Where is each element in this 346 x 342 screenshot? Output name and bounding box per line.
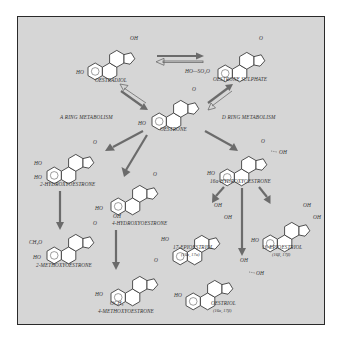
compound-label: 16-EPIOESTRIOL <box>262 244 302 250</box>
compound-label: 2-HYDROXYOESTRONE <box>40 181 96 187</box>
arrow-16a-to-16-epioestriol <box>259 187 271 204</box>
group-label: OH <box>214 202 223 208</box>
compound-17-epioestriol: OH OH HO 17-EPIOESTRIOL (16α, 17α) <box>160 202 233 265</box>
compound-label: OESTRIOL <box>211 300 236 306</box>
metabolism-diagram: OH HO OESTRADIOL O HO—SO₂O OESTRONE SULP… <box>0 0 346 342</box>
group-label: CH₃O <box>29 239 42 245</box>
arrow-sulphate-to-oestradiol <box>156 58 203 65</box>
group-label: HO <box>94 291 103 297</box>
group-label: OH <box>113 213 122 219</box>
group-label: OH <box>240 257 249 263</box>
arrow-4-hydroxy-to-4-methoxy <box>112 230 120 270</box>
group-label: HO <box>173 292 182 298</box>
group-label: HO <box>250 237 259 243</box>
group-label: O <box>261 138 265 144</box>
arrow-oestradiol-to-oestrone <box>121 91 148 110</box>
group-label: HO <box>206 170 215 176</box>
group-label: HO <box>160 236 169 242</box>
arrow-oestrone-to-16a-hydroxyoestrone <box>205 131 238 151</box>
compound-4-methoxyoestrone: O HO OCH₃ 4-METHOXYOESTRONE <box>94 257 158 314</box>
compound-2-hydroxyoestrone: O HO HO 2-HYDROXYOESTRONE <box>33 139 97 187</box>
compound-label: OESTRADIOL <box>95 77 127 83</box>
group-label: OH <box>256 270 265 276</box>
group-label: HO <box>33 174 42 180</box>
group-label: HO <box>94 205 103 211</box>
compound-oestriol: OH OH HO OESTRIOL (16α, 17β) <box>173 257 265 314</box>
compound-label: OESTRONE SULPHATE <box>213 76 268 82</box>
arrow-2-hydroxy-to-2-methoxy <box>56 191 64 230</box>
group-label: O <box>192 86 196 92</box>
section-label-a-ring: A RING METABOLISM <box>59 114 113 120</box>
compound-16a-hydroxyoestrone: O OH HO 16α-HYDROXYOESTRONE <box>206 138 288 186</box>
group-label: HO <box>32 254 41 260</box>
group-label: O <box>93 220 97 226</box>
stereo-label: (16α, 17β) <box>213 308 232 314</box>
compound-16-epioestriol: OH OH HO 16-EPIOESTRIOL (16β, 17β) <box>250 202 322 258</box>
group-label: OH <box>279 149 288 155</box>
group-label: O <box>154 257 158 263</box>
group-label: HO <box>137 120 146 126</box>
arrow-16a-to-oestriol <box>238 188 246 256</box>
compound-label: 2-METHOXYOESTRONE <box>36 262 93 268</box>
group-label: HO <box>33 160 42 166</box>
compound-oestradiol: OH HO OESTRADIOL <box>75 35 139 83</box>
group-label: OCH₃ <box>110 300 123 306</box>
group-label: O <box>259 35 263 41</box>
group-label: O <box>153 171 157 177</box>
group-label: HO—SO₂O <box>184 68 210 74</box>
group-label: O <box>93 139 97 145</box>
group-label: OH <box>224 214 233 220</box>
compound-label: 4-HYDROXYOESTRONE <box>112 220 168 226</box>
compound-label: OESTRONE <box>160 126 187 132</box>
compound-label: 4-METHOXYOESTRONE <box>98 308 155 314</box>
compound-2-methoxyoestrone: O CH₃O HO 2-METHOXYOESTRONE <box>29 220 97 268</box>
compound-4-hydroxyoestrone: O HO OH 4-HYDROXYOESTRONE <box>94 171 168 226</box>
group-label: OH <box>303 202 312 208</box>
arrow-oestrone-to-2-hydroxyoestrone <box>105 131 143 151</box>
arrow-16a-to-17-epioestriol <box>212 187 224 203</box>
compound-label: 17-EPIOESTRIOL <box>173 244 213 250</box>
section-label-d-ring: D RING METABOLISM <box>221 114 276 120</box>
stereo-label: (16β, 17β) <box>272 252 291 258</box>
compound-label: 16α-HYDROXYOESTRONE <box>210 178 272 184</box>
group-label: OH <box>313 214 322 220</box>
group-label: OH <box>130 35 139 41</box>
group-label: HO <box>75 69 84 75</box>
